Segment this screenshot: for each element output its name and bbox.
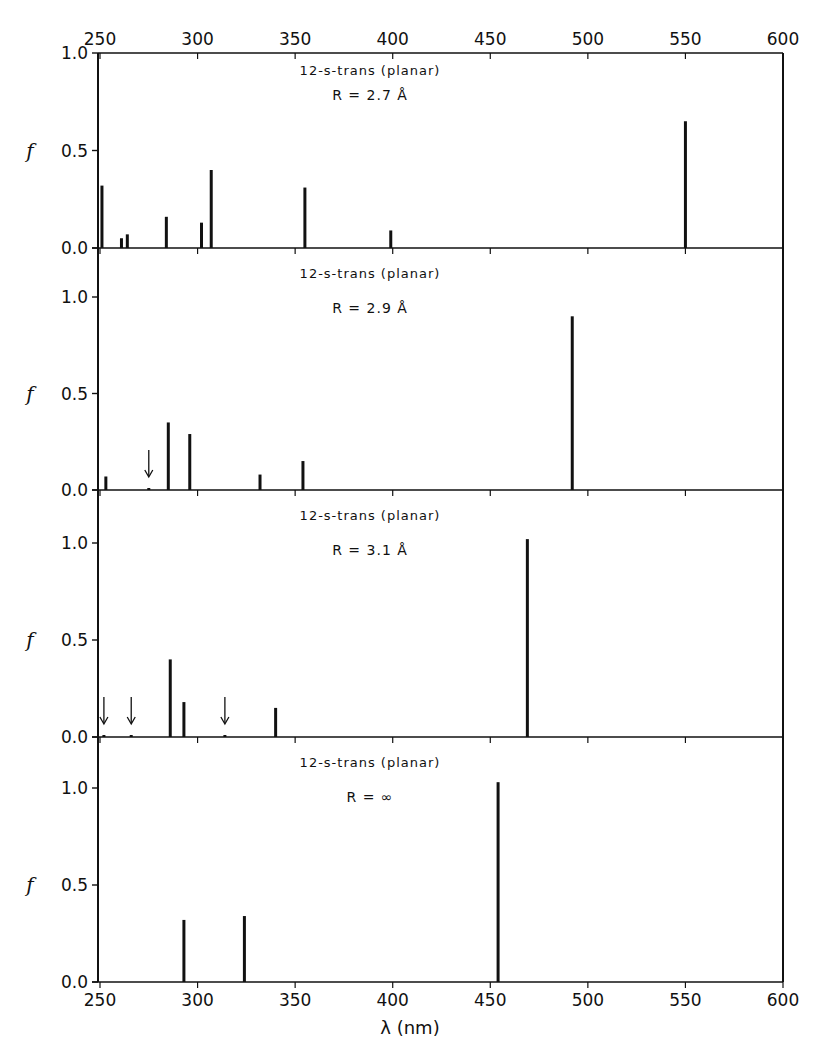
- y-tick-label: 1.0: [61, 287, 88, 307]
- x-tick-label-top: 300: [181, 29, 213, 49]
- y-tick-label: 1.0: [61, 778, 88, 798]
- y-tick-label: 0.5: [61, 630, 88, 650]
- y-tick-label: 0.0: [61, 238, 88, 258]
- y-axis-label-f: f: [24, 139, 37, 163]
- x-tick-label-bottom: 550: [669, 990, 701, 1010]
- y-tick-label: 0.0: [61, 727, 88, 747]
- y-tick-label: 0.0: [61, 972, 88, 992]
- panel-annotation-distance: R = 2.7 Å: [332, 87, 408, 103]
- panel-annotation-distance: R = ∞: [346, 789, 393, 805]
- x-tick-label-top: 400: [376, 29, 408, 49]
- x-tick-label-top: 450: [474, 29, 506, 49]
- y-tick-label: 0.5: [61, 384, 88, 404]
- panel-annotation-distance: R = 3.1 Å: [332, 542, 408, 558]
- panel-annotation-molecule: 12-s-trans (planar): [300, 508, 441, 523]
- y-tick-label: 0.5: [61, 141, 88, 161]
- x-tick-label-top: 350: [279, 29, 311, 49]
- x-axis-label: λ (nm): [380, 1017, 439, 1038]
- x-tick-label-bottom: 500: [572, 990, 604, 1010]
- chart-canvas: 0.00.51.0f12-s-trans (planar)R = 2.7 Å0.…: [0, 0, 831, 1053]
- y-axis-label-f: f: [24, 873, 37, 897]
- x-tick-label-bottom: 450: [474, 990, 506, 1010]
- y-axis-label-f: f: [24, 628, 37, 652]
- y-tick-label: 0.5: [61, 875, 88, 895]
- x-tick-label-top: 550: [669, 29, 701, 49]
- panel-annotation-molecule: 12-s-trans (planar): [300, 755, 441, 770]
- panel-annotation-molecule: 12-s-trans (planar): [300, 266, 441, 281]
- x-tick-label-top: 250: [84, 29, 116, 49]
- panel-annotation-molecule: 12-s-trans (planar): [300, 63, 441, 78]
- x-tick-label-bottom: 300: [181, 990, 213, 1010]
- panel-annotation-distance: R = 2.9 Å: [332, 300, 408, 316]
- y-tick-label: 1.0: [61, 533, 88, 553]
- x-tick-label-bottom: 250: [84, 990, 116, 1010]
- x-tick-label-bottom: 350: [279, 990, 311, 1010]
- stick-spectrum-figure: 0.00.51.0f12-s-trans (planar)R = 2.7 Å0.…: [0, 0, 831, 1053]
- x-tick-label-top: 500: [572, 29, 604, 49]
- y-axis-label-f: f: [24, 382, 37, 406]
- x-tick-label-bottom: 400: [376, 990, 408, 1010]
- x-tick-label-bottom: 600: [767, 990, 799, 1010]
- x-tick-label-top: 600: [767, 29, 799, 49]
- y-tick-label: 0.0: [61, 480, 88, 500]
